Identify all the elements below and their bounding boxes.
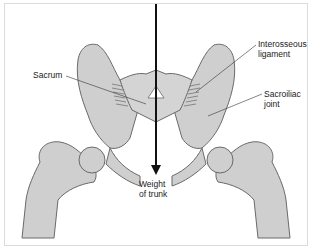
weight-label-line2: of trunk (139, 190, 167, 200)
pelvis-diagram (0, 0, 312, 250)
pubic-arch-right (172, 148, 206, 186)
left-femoral-head (79, 147, 105, 173)
sacrum-label-text: Sacrum (33, 71, 62, 81)
pubic-arch (106, 148, 140, 186)
sacroiliac-label-line2: joint (264, 100, 301, 110)
sacrum-label: Sacrum (33, 71, 62, 81)
sacroiliac-joint-label: Sacroiliac joint (264, 90, 301, 109)
interosseous-label-line2: ligament (258, 50, 307, 60)
interosseous-ligament-label: Interosseous ligament (258, 40, 307, 59)
weight-of-trunk-label: Weight of trunk (139, 180, 167, 199)
right-femoral-head (207, 147, 233, 173)
